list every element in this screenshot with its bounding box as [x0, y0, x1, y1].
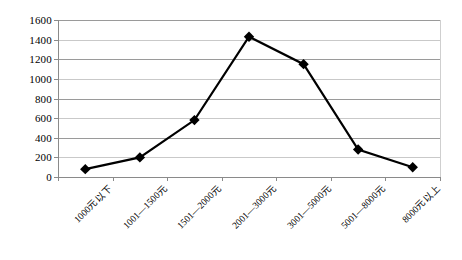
line-chart: 02004006008001000120014001600 1000元以下100…: [0, 0, 462, 260]
data-point-marker: [298, 59, 308, 69]
data-point-marker: [408, 162, 418, 172]
series-line: [85, 37, 412, 169]
data-point-marker: [353, 144, 363, 154]
data-point-marker: [80, 164, 90, 174]
data-series-layer: [0, 0, 462, 260]
